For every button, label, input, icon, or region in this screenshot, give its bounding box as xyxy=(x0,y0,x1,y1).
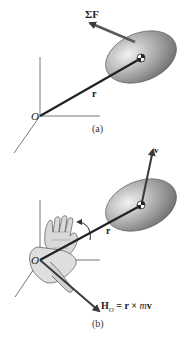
momentum-H: H xyxy=(101,300,109,311)
diagram-canvas xyxy=(0,0,188,341)
position-label-a: r xyxy=(92,89,96,99)
position-vector-a xyxy=(40,60,138,116)
center-of-mass-icon xyxy=(137,201,145,209)
force-label: ΣF xyxy=(85,9,99,20)
origin-label-a: O xyxy=(31,111,39,122)
figure-b xyxy=(15,150,184,311)
origin-label-b: O xyxy=(31,255,39,266)
momentum-equation: HO = r × mv xyxy=(101,301,152,314)
force-arrow-a xyxy=(90,23,135,42)
momentum-m: m xyxy=(140,300,147,311)
center-of-mass-icon xyxy=(137,54,145,62)
position-label-b: r xyxy=(106,226,110,236)
momentum-v: v xyxy=(147,300,152,311)
velocity-label: v xyxy=(154,146,159,155)
caption-a: (a) xyxy=(92,124,103,134)
momentum-rest: = r × xyxy=(114,300,140,311)
caption-b: (b) xyxy=(92,319,104,329)
